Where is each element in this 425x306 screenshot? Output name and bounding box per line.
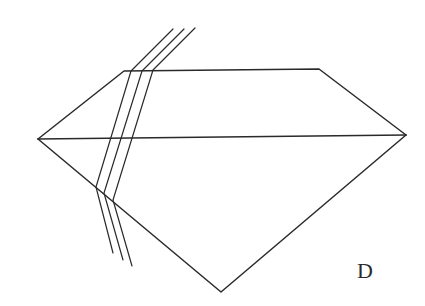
gem-diagram: D	[0, 0, 425, 306]
gem-girdle-line	[38, 135, 406, 139]
light-ray-3	[113, 28, 195, 266]
light-rays	[96, 28, 195, 266]
gem-pavilion-outline	[38, 135, 406, 292]
gem-crown-outline	[38, 69, 406, 139]
gem-outline	[38, 69, 406, 292]
light-ray-2	[104, 29, 184, 260]
figure-label: D	[357, 258, 373, 283]
